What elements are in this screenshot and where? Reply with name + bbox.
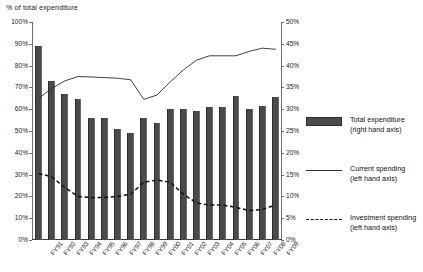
left-tick-label: 80%: [2, 62, 28, 69]
x-axis-label: FY03: [206, 240, 221, 256]
legend-label-text: Current spending: [350, 164, 405, 173]
left-tick-label: 70%: [2, 83, 28, 90]
legend-label-investment-spending: Investment spending (left hand axis): [350, 213, 416, 232]
left-tick-label: 20%: [2, 192, 28, 199]
x-axis-label: FY92: [62, 240, 77, 256]
chart-legend: Total expenditure (right hand axis) Curr…: [306, 0, 423, 272]
legend-label-text: Total expenditure: [350, 115, 405, 124]
x-axis-label: FY97: [127, 240, 142, 256]
x-axis-label: FY02: [193, 240, 208, 256]
x-axis-label: FY05: [233, 240, 248, 256]
x-axis-label: FY08: [272, 240, 287, 256]
left-tick-label: 0%: [2, 236, 28, 243]
solid-line-swatch-icon: [306, 165, 342, 177]
legend-sublabel-text: (left hand axis): [350, 223, 416, 233]
legend-sublabel-text: (right hand axis): [350, 125, 405, 135]
bar-swatch-icon: [306, 116, 342, 128]
x-axis-label: FY98: [141, 240, 156, 256]
left-tick-label: 100%: [2, 18, 28, 25]
x-axis-label: FY01: [180, 240, 195, 256]
legend-label-text: Investment spending: [350, 213, 416, 222]
plot-area: 0%10%20%30%40%50%60%70%80%90%100% 0%5%10…: [32, 22, 282, 240]
left-tick-label: 30%: [2, 171, 28, 178]
left-tick-label: 50%: [2, 127, 28, 134]
line-series-layer: [32, 22, 282, 240]
x-axis-label: FY96: [114, 240, 129, 256]
x-axis-label: FY07: [259, 240, 274, 256]
x-axis-label: FY91: [48, 240, 63, 256]
x-axis-label: FY95: [101, 240, 116, 256]
left-tick-label: 40%: [2, 149, 28, 156]
x-axis-labels: FY91FY92FY93FY94FY95FY96FY97FY98FY99FY00…: [32, 240, 282, 272]
x-axis-label: FY06: [246, 240, 261, 256]
legend-sublabel-text: (left hand axis): [350, 174, 405, 184]
y-axis-title: % of total expenditure: [6, 3, 78, 12]
x-axis-label: FY93: [75, 240, 90, 256]
left-tick-label: 90%: [2, 40, 28, 47]
investment-spending-line: [39, 174, 276, 211]
left-tick-label: 10%: [2, 214, 28, 221]
x-axis-label: FY04: [219, 240, 234, 256]
left-tick-label: 60%: [2, 105, 28, 112]
current-spending-line: [39, 48, 276, 99]
dashed-line-swatch-icon: [306, 214, 342, 226]
chart-figure: % of total expenditure 0%10%20%30%40%50%…: [0, 0, 423, 272]
x-axis-label: FY94: [88, 240, 103, 256]
legend-label-total-expenditure: Total expenditure (right hand axis): [350, 115, 405, 134]
x-axis-label: FY00: [167, 240, 182, 256]
x-axis-label: FY99: [154, 240, 169, 256]
legend-label-current-spending: Current spending (left hand axis): [350, 164, 405, 183]
